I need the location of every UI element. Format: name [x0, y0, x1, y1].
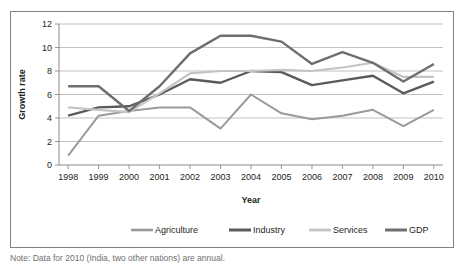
chart-legend: AgricultureIndustryServicesGDP [131, 225, 429, 235]
x-axis-title: Year [241, 195, 261, 205]
x-tick-label-1999: 1999 [89, 172, 109, 182]
x-tick-label-2006: 2006 [302, 172, 322, 182]
x-tick-label-2002: 2002 [180, 172, 200, 182]
y-axis-tick-labels: 024681012 [42, 19, 52, 170]
x-axis-tick-labels: 1998199920002001200220032004200520062007… [58, 172, 444, 182]
y-tick-label-12: 12 [42, 19, 52, 29]
y-tick-label-4: 4 [47, 113, 52, 123]
x-tick-label-2004: 2004 [241, 172, 261, 182]
y-tick-label-6: 6 [47, 90, 52, 100]
x-tick-label-2001: 2001 [150, 172, 170, 182]
x-tick-label-2003: 2003 [211, 172, 231, 182]
y-tick-label-0: 0 [47, 160, 52, 170]
legend-label-gdp: GDP [409, 225, 429, 235]
y-axis-title: Growth rate [17, 69, 27, 120]
legend-label-agriculture: Agriculture [155, 225, 198, 235]
legend-label-services: Services [333, 225, 368, 235]
x-tick-label-2008: 2008 [363, 172, 383, 182]
x-tick-label-1998: 1998 [58, 172, 78, 182]
y-tick-label-2: 2 [47, 137, 52, 147]
figure-caption: Note: Data for 2010 (India, two other na… [10, 252, 460, 265]
series-line-industry [68, 71, 434, 116]
x-tick-label-2000: 2000 [119, 172, 139, 182]
legend-label-industry: Industry [253, 225, 286, 235]
x-tick-label-2010: 2010 [424, 172, 444, 182]
chart-frame: 024681012 199819992000200120022003200420… [10, 11, 454, 248]
series-line-gdp [68, 36, 434, 111]
series-line-agriculture [68, 95, 434, 156]
x-tick-label-2009: 2009 [393, 172, 413, 182]
x-tick-label-2005: 2005 [271, 172, 291, 182]
y-tick-label-10: 10 [42, 43, 52, 53]
growth-rate-line-chart: 024681012 199819992000200120022003200420… [11, 12, 453, 247]
series-lines-group [68, 36, 434, 156]
x-tick-label-2007: 2007 [332, 172, 352, 182]
y-tick-label-8: 8 [47, 66, 52, 76]
